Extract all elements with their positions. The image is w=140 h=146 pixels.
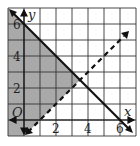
y-tick-2: 2 (13, 82, 21, 96)
y-axis-label: y (27, 7, 36, 22)
x-tick-6: 6 (116, 122, 124, 136)
y-tick-4: 4 (13, 50, 21, 64)
origin-label: O (12, 105, 23, 120)
inequality-graph: y x O 6 4 2 2 4 6 (0, 0, 140, 146)
x-tick-2: 2 (52, 122, 60, 136)
x-axis-label: x (124, 104, 132, 119)
x-tick-4: 4 (84, 122, 92, 136)
y-tick-6: 6 (13, 18, 21, 32)
